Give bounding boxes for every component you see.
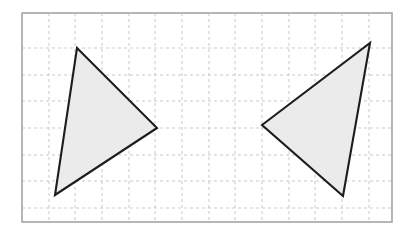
geometry-figure [0,0,414,238]
figure-canvas: Two congruent triangles on a dashed grid [0,0,414,238]
